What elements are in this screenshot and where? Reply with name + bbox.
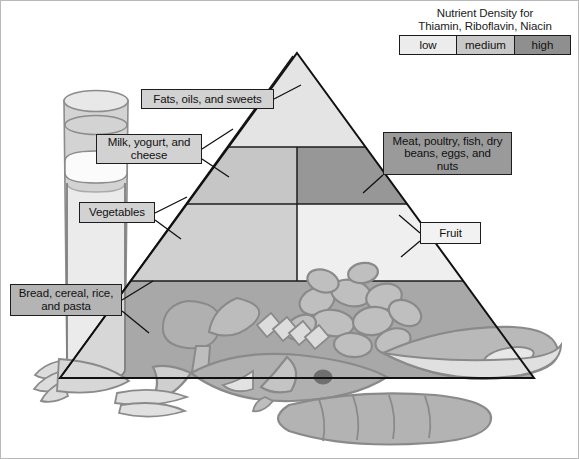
legend-swatch-medium: medium [456, 36, 514, 54]
bread-loaf-icon [278, 393, 491, 444]
legend-swatch-low: low [400, 36, 456, 54]
legend: Nutrient Density for Thiamin, Riboflavin… [399, 7, 571, 55]
pyramid-illustration [1, 1, 579, 459]
label-bread-cereal-rice-pasta: Bread, cereal, rice, and pasta [10, 284, 122, 316]
legend-title: Nutrient Density for Thiamin, Riboflavin… [399, 7, 571, 32]
label-milk-yogurt-cheese: Milk, yogurt, and cheese [96, 134, 202, 164]
legend-swatch-high: high [514, 36, 570, 54]
breadsticks-icon [115, 390, 187, 417]
legend-swatches: low medium high [399, 35, 571, 55]
food-pyramid-figure: Nutrient Density for Thiamin, Riboflavin… [0, 0, 579, 459]
label-fats-oils-sweets: Fats, oils, and sweets [141, 89, 274, 109]
label-fruit: Fruit [420, 222, 481, 244]
label-meat-poultry-fish: Meat, poultry, fish, dry beans, eggs, an… [383, 132, 512, 175]
label-vegetables: Vegetables [79, 202, 155, 223]
